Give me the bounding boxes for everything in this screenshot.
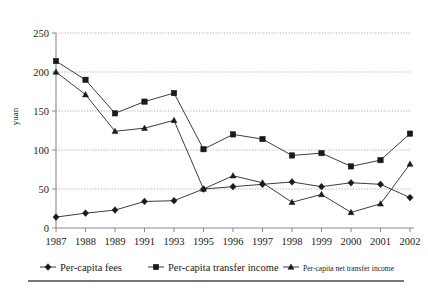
chart-legend: Per-capita feesPer-capita transfer incom… <box>40 262 395 273</box>
data-point <box>142 99 147 104</box>
x-tick-label: 1996 <box>223 236 244 247</box>
data-point <box>407 194 413 201</box>
series-line <box>56 72 410 212</box>
x-tick-label: 1988 <box>75 236 96 247</box>
data-point <box>201 147 206 152</box>
data-point <box>289 153 294 158</box>
data-point <box>319 150 324 155</box>
data-point <box>83 77 88 82</box>
y-tick-label: 250 <box>33 28 49 39</box>
x-tick-label: 1991 <box>134 236 155 247</box>
series-3 <box>53 69 413 215</box>
data-point <box>377 181 383 188</box>
data-point <box>112 207 118 214</box>
data-point <box>407 131 412 136</box>
data-point <box>53 214 59 221</box>
data-point <box>230 173 236 178</box>
legend-marker-diamond-icon <box>45 264 51 271</box>
x-tick-label: 1999 <box>311 236 332 247</box>
line-chart: 0501001502002501987198819891991199319951… <box>0 0 428 292</box>
data-point <box>53 58 58 63</box>
x-tick-label: 1989 <box>105 236 126 247</box>
x-tick-label: 2001 <box>370 236 391 247</box>
data-point <box>171 90 176 95</box>
data-point <box>230 132 235 137</box>
y-tick-label: 0 <box>44 223 49 234</box>
data-point <box>141 198 147 205</box>
data-point <box>348 179 354 186</box>
legend-label: Per-capita net transfer income <box>303 264 395 273</box>
data-point <box>289 179 295 186</box>
series-2 <box>53 58 412 169</box>
chart-figure: 0501001502002501987198819891991199319951… <box>0 0 428 292</box>
y-axis-title: yuan <box>10 107 20 125</box>
x-tick-label: 1993 <box>164 236 185 247</box>
x-tick-label: 1987 <box>46 236 67 247</box>
y-tick-label: 100 <box>33 145 49 156</box>
x-tick-label: 1998 <box>282 236 303 247</box>
x-tick-label: 2002 <box>400 236 421 247</box>
y-tick-label: 50 <box>39 184 50 195</box>
legend-item-3: Per-capita net transfer income <box>283 264 395 273</box>
x-tick-label: 1995 <box>193 236 214 247</box>
data-point <box>82 210 88 217</box>
series-line <box>56 61 410 166</box>
legend-marker-square-icon <box>153 264 158 269</box>
data-point <box>171 117 177 122</box>
data-point <box>319 191 325 196</box>
y-tick-label: 150 <box>33 106 49 117</box>
legend-label: Per-capita transfer income <box>168 262 279 273</box>
series-1 <box>53 179 413 221</box>
data-point <box>407 161 413 166</box>
legend-label: Per-capita fees <box>60 262 122 273</box>
y-tick-label: 200 <box>33 67 49 78</box>
data-point <box>112 111 117 116</box>
data-point <box>348 164 353 169</box>
data-point <box>260 136 265 141</box>
legend-item-2: Per-capita transfer income <box>148 262 279 273</box>
data-point <box>171 197 177 204</box>
data-point <box>378 157 383 162</box>
data-point <box>230 183 236 190</box>
legend-item-1: Per-capita fees <box>40 262 122 273</box>
x-tick-label: 2000 <box>341 236 362 247</box>
x-tick-label: 1997 <box>252 236 273 247</box>
data-point <box>83 92 89 97</box>
